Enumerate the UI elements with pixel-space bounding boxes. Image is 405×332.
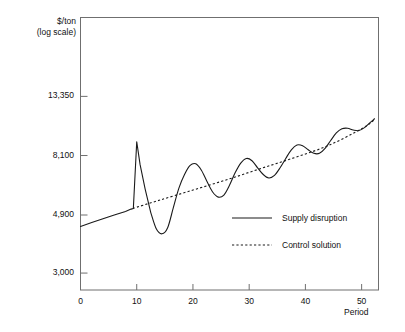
- legend-label-supply-disruption: Supply disruption: [282, 213, 347, 223]
- y-tick-label: 4,900: [18, 209, 74, 219]
- legend-label-control-solution: Control solution: [282, 240, 341, 250]
- x-tick-label: 10: [122, 296, 152, 306]
- x-axis-title: Period: [344, 307, 369, 317]
- plot-canvas: [0, 0, 405, 332]
- x-tick-marks: [81, 284, 362, 290]
- chart-figure: $/ton (log scale) 3,0004,9008,10013,350 …: [0, 0, 405, 332]
- y-tick-label: 13,350: [18, 90, 74, 100]
- y-tick-label: 8,100: [18, 150, 74, 160]
- y-tick-marks: [81, 96, 88, 273]
- x-tick-label: 30: [234, 296, 264, 306]
- x-tick-label: 40: [290, 296, 320, 306]
- x-tick-label: 50: [347, 296, 377, 306]
- series-line-control-solution: [133, 120, 375, 209]
- y-tick-label: 3,000: [18, 267, 74, 277]
- x-tick-label: 0: [66, 296, 96, 306]
- x-tick-label: 20: [178, 296, 208, 306]
